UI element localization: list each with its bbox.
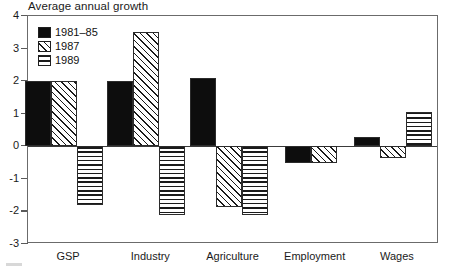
bar xyxy=(133,32,159,146)
bar xyxy=(242,146,268,214)
y-axis-label: 1 xyxy=(0,107,19,119)
x-axis-label-wages: Wages xyxy=(380,250,414,262)
legend-label: 1981–85 xyxy=(55,27,98,38)
x-axis-label-employment: Employment xyxy=(284,250,345,262)
bar xyxy=(354,137,380,147)
y-axis-tick xyxy=(21,243,28,244)
y-axis-label: 4 xyxy=(0,9,19,21)
legend-item: 1987 xyxy=(38,40,98,53)
y-axis-label: -3 xyxy=(0,237,19,249)
legend-swatch-icon xyxy=(38,41,51,52)
bar xyxy=(216,146,242,206)
legend-item: 1981–85 xyxy=(38,26,98,39)
bar xyxy=(311,146,337,162)
legend-item: 1989 xyxy=(38,54,98,67)
bar xyxy=(107,81,133,146)
y-axis-label: 3 xyxy=(0,42,19,54)
legend-label: 1989 xyxy=(55,55,79,66)
chart-figure: Average annual growth 43210-1-2-3 GSPInd… xyxy=(0,0,449,271)
bar xyxy=(77,146,103,205)
legend-swatch-icon xyxy=(38,27,51,38)
bar xyxy=(406,112,432,146)
y-axis-label: 0 xyxy=(0,139,19,151)
bar xyxy=(51,81,77,146)
bar xyxy=(25,81,51,146)
legend-label: 1987 xyxy=(55,41,79,52)
chart-legend: 1981–8519871989 xyxy=(38,26,98,67)
y-axis-label: 2 xyxy=(0,74,19,86)
bar xyxy=(159,146,185,214)
legend-swatch-icon xyxy=(38,55,51,66)
y-axis-label: -1 xyxy=(0,172,19,184)
bar xyxy=(285,146,311,162)
x-axis-label-industry: Industry xyxy=(131,250,170,262)
x-axis-label-agriculture: Agriculture xyxy=(206,250,259,262)
bar xyxy=(380,146,406,157)
chart-title: Average annual growth xyxy=(28,0,148,12)
bar xyxy=(190,78,216,146)
scan-artifact xyxy=(6,263,22,266)
x-axis-label-gsp: GSP xyxy=(56,250,79,262)
y-axis-label: -2 xyxy=(0,204,19,216)
